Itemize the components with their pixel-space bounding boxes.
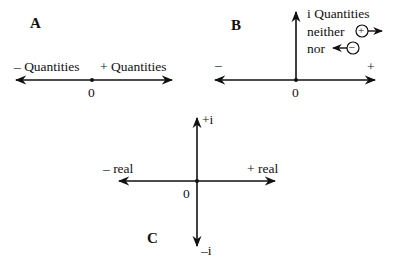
- positive-sign-label: +: [367, 60, 375, 74]
- diagram-a-number-line: [16, 78, 172, 82]
- nor-label: nor: [307, 42, 325, 56]
- diagram-b-label: B: [231, 18, 241, 33]
- diagram-c-complex-plane: [119, 118, 275, 246]
- negative-quantities-label: – Quantities: [14, 60, 80, 74]
- diagram-a-origin: 0: [88, 86, 95, 100]
- plus-symbol: +: [358, 25, 364, 36]
- negative-sign-label: –: [215, 58, 222, 72]
- positive-i-label: +i: [202, 113, 213, 127]
- positive-real-label: + real: [247, 162, 278, 176]
- minus-symbol: –: [349, 41, 355, 52]
- positive-quantities-label: + Quantities: [100, 60, 166, 74]
- neither-label: neither: [307, 25, 344, 39]
- negative-real-label: – real: [103, 162, 133, 176]
- diagram-c-label: C: [147, 231, 158, 246]
- diagram-b-origin: 0: [292, 86, 299, 100]
- diagram-a-label: A: [30, 16, 41, 31]
- i-quantities-label: i Quantities: [307, 7, 370, 21]
- negative-i-label: –i: [201, 244, 212, 257]
- diagram-c-origin: 0: [183, 187, 190, 201]
